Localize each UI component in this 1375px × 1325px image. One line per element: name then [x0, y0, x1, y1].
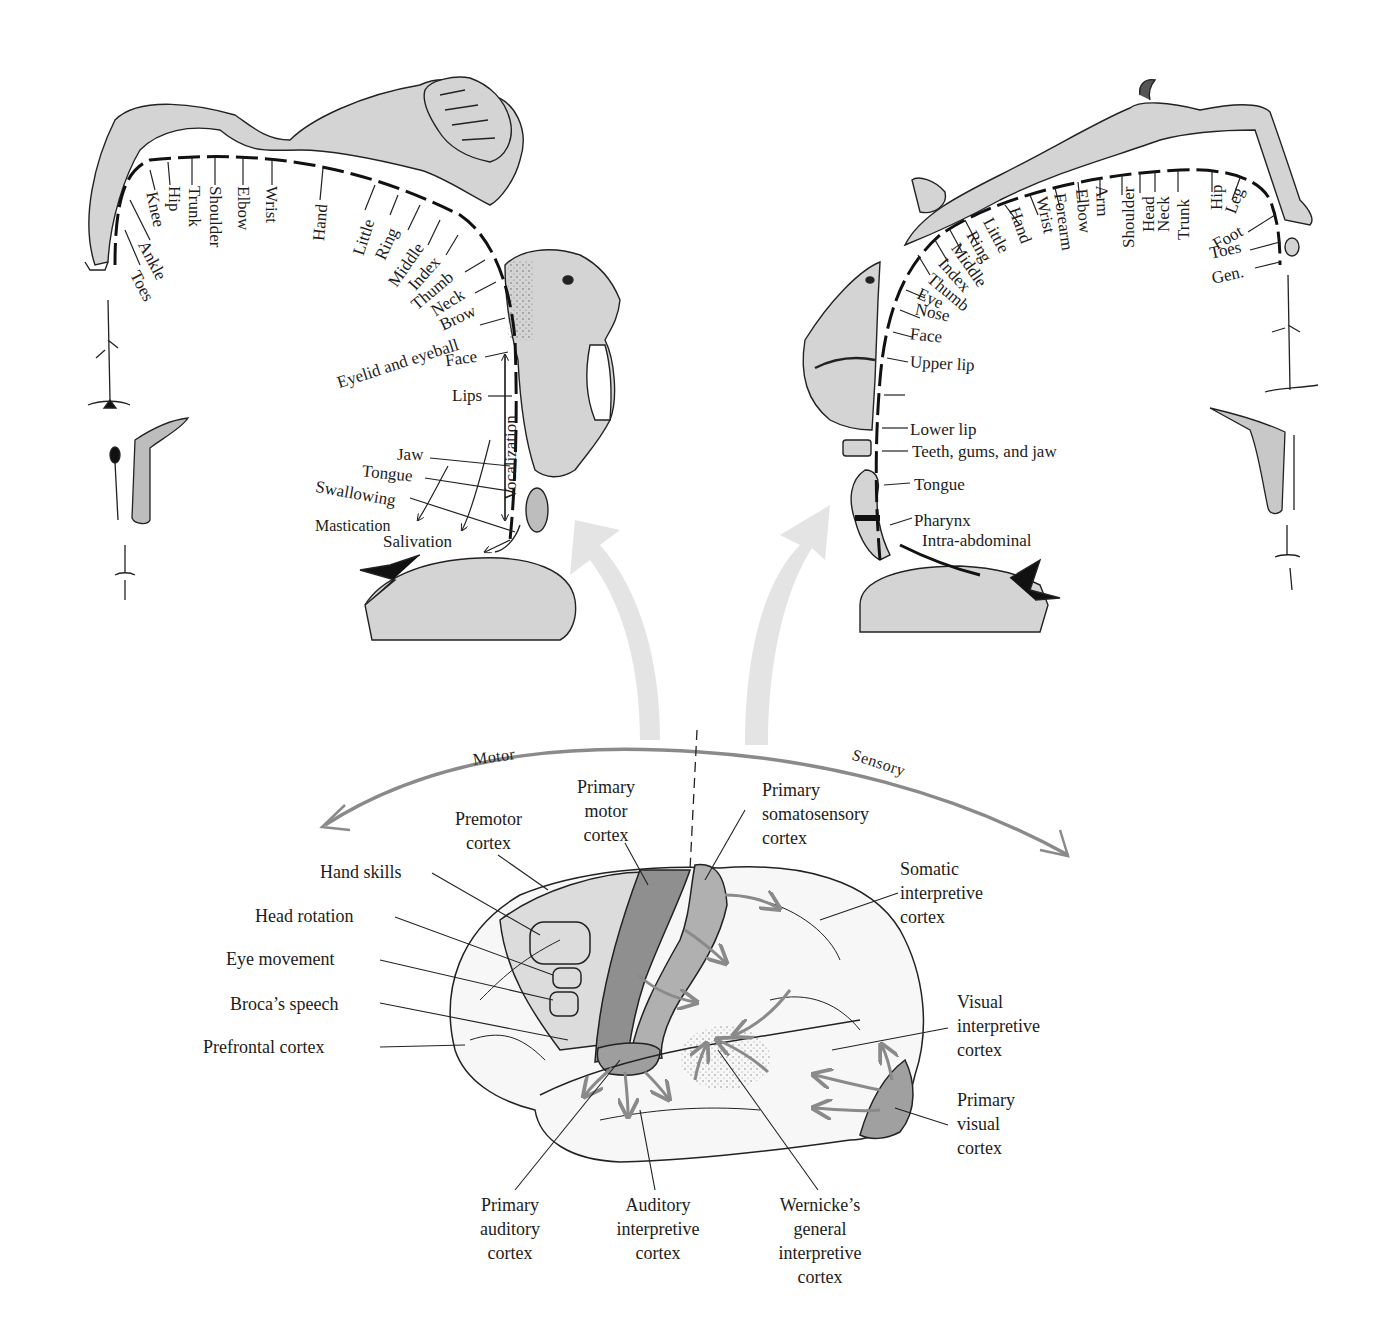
- label-somatic-interpretive-cortex: Somatic interpretive cortex: [900, 857, 983, 929]
- audint-line2: interpretive: [598, 1217, 718, 1241]
- label-primary-motor-cortex: Primary motor cortex: [577, 775, 635, 847]
- sensory-label-arm: Arm: [1093, 185, 1111, 217]
- aud-line2: auditory: [465, 1217, 555, 1241]
- label-primary-auditory-cortex: Primary auditory cortex: [465, 1193, 555, 1265]
- somatic-line1: Somatic: [900, 857, 983, 881]
- somato-line3: cortex: [762, 826, 869, 850]
- left-side-sketches: [88, 300, 188, 600]
- label-premotor-cortex: Premotor cortex: [455, 807, 522, 855]
- sensory-label-shoulder: Shoulder: [1120, 187, 1137, 248]
- motor-projection-arrow: [570, 520, 660, 740]
- primary-visual-line2: visual: [957, 1112, 1015, 1136]
- motor-label-jaw: Jaw: [397, 446, 423, 463]
- sensory-label-elbow: Elbow: [1073, 188, 1094, 234]
- premotor-line1: Premotor: [455, 807, 522, 831]
- wern-line2: general: [760, 1217, 880, 1241]
- primary-motor-line1: Primary: [577, 775, 635, 799]
- label-head-rotation: Head rotation: [255, 907, 353, 925]
- label-primary-visual-cortex: Primary visual cortex: [957, 1088, 1015, 1160]
- primary-visual-line1: Primary: [957, 1088, 1015, 1112]
- aud-line3: cortex: [465, 1241, 555, 1265]
- label-visual-interpretive-cortex: Visual interpretive cortex: [957, 990, 1040, 1062]
- audint-line3: cortex: [598, 1241, 718, 1265]
- sensory-label-teeth-gums-jaw: Teeth, gums, and jaw: [912, 443, 1057, 460]
- label-brocas-speech: Broca’s speech: [230, 995, 338, 1013]
- motor-label-shoulder: Shoulder: [207, 186, 224, 247]
- motor-label-wrist: Wrist: [263, 186, 280, 223]
- motor-label-salivation: Salivation: [383, 533, 452, 550]
- sensory-label-intra-abdominal: Intra-abdominal: [922, 532, 1032, 549]
- sensory-label-neck: Neck: [1155, 196, 1172, 232]
- wern-line1: Wernicke’s: [760, 1193, 880, 1217]
- sensory-label-tongue: Tongue: [914, 476, 965, 493]
- somato-line2: somatosensory: [762, 802, 869, 826]
- motor-label-trunk: Trunk: [186, 186, 203, 227]
- motor-label-hip: Hip: [166, 186, 183, 212]
- somato-line1: Primary: [762, 778, 869, 802]
- sensory-label-upper-lip: Upper lip: [910, 353, 975, 373]
- vocalization-bracket: [410, 355, 515, 552]
- sensory-projection-arrow: [745, 505, 830, 745]
- motor-label-hand: Hand: [310, 203, 330, 241]
- primary-motor-line2: motor: [577, 799, 635, 823]
- primary-motor-line3: cortex: [577, 823, 635, 847]
- right-side-sketches: [1210, 275, 1318, 590]
- label-eye-movement: Eye movement: [226, 950, 334, 968]
- sensory-label-trunk: Trunk: [1175, 199, 1192, 240]
- label-auditory-interpretive-cortex: Auditory interpretive cortex: [598, 1193, 718, 1265]
- sensory-label-lower-lip: Lower lip: [910, 421, 977, 438]
- wern-line4: cortex: [760, 1265, 880, 1289]
- label-wernickes-general-interpretive-cortex: Wernicke’s general interpretive cortex: [760, 1193, 880, 1289]
- label-hand-skills: Hand skills: [320, 863, 402, 881]
- visual-int-line1: Visual: [957, 990, 1040, 1014]
- motor-label-elbow: Elbow: [235, 186, 252, 230]
- motor-label-mastication: Mastication: [315, 518, 391, 534]
- somatic-line2: interpretive: [900, 881, 983, 905]
- wern-line3: interpretive: [760, 1241, 880, 1265]
- motor-label-lips: Lips: [452, 387, 482, 404]
- audint-line1: Auditory: [598, 1193, 718, 1217]
- motor-sensory-arc: [322, 730, 1068, 870]
- sensory-label-face: Face: [909, 325, 943, 345]
- sensory-label-pharynx: Pharynx: [914, 512, 971, 529]
- label-primary-somatosensory-cortex: Primary somatosensory cortex: [762, 778, 869, 850]
- primary-visual-line3: cortex: [957, 1136, 1015, 1160]
- aud-line1: Primary: [465, 1193, 555, 1217]
- motor-label-face: Face: [444, 348, 478, 369]
- premotor-line2: cortex: [455, 831, 522, 855]
- motor-label-vocalization: Vocalization: [502, 415, 519, 500]
- somatic-line3: cortex: [900, 905, 983, 929]
- visual-int-line3: cortex: [957, 1038, 1040, 1062]
- visual-int-line2: interpretive: [957, 1014, 1040, 1038]
- label-prefrontal-cortex: Prefrontal cortex: [203, 1038, 324, 1056]
- motor-homunculus-figure: [85, 77, 620, 640]
